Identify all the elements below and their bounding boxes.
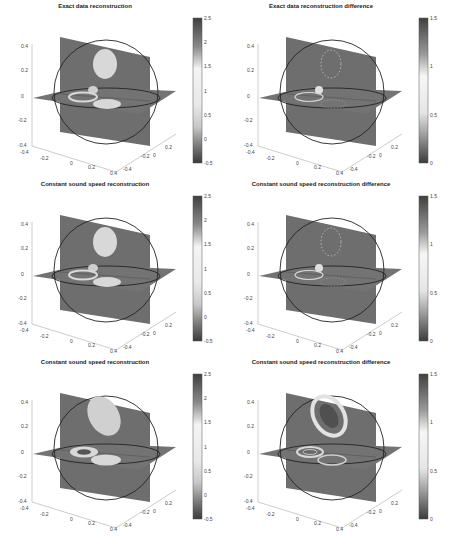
x-tick-label: 0.2: [88, 164, 95, 170]
x-tick-label: -0.2: [40, 333, 49, 339]
z-tick-label: -0.2: [244, 473, 253, 479]
x-tick-label: -0.4: [20, 149, 29, 155]
plot-title: Constant sound speed reconstruction: [0, 359, 190, 365]
plot-panel-1: Exact data reconstruction 0.40.20-0.2-0.…: [0, 0, 226, 178]
y-tick-label: -0.2: [141, 331, 150, 337]
colorbar-tick-label: 2: [204, 217, 207, 223]
z-tick-label: -0.4: [18, 320, 27, 326]
colorbar-tick-label: 0: [204, 136, 207, 142]
z-tick-label: 0: [247, 271, 250, 277]
x-tick-label: 0.2: [314, 164, 321, 170]
z-tick-label: 0: [247, 449, 250, 455]
z-tick-label: 0: [247, 93, 250, 99]
x-tick-label: 0.2: [314, 342, 321, 348]
x-tick-label: -0.2: [266, 333, 275, 339]
x-tick-label: -0.4: [246, 327, 255, 333]
colorbar-tick-label: 0: [430, 338, 433, 344]
y-tick-label: -0.2: [367, 331, 376, 337]
colorbar: [419, 196, 428, 341]
colorbar-tick-label: 0: [430, 516, 433, 522]
plot-title: Constant sound speed reconstruction diff…: [226, 359, 416, 365]
y-tick-label: 0.2: [391, 500, 398, 506]
z-tick-label: -0.4: [18, 498, 27, 504]
x-tick-label: 0.2: [314, 520, 321, 526]
z-tick-label: -0.4: [244, 498, 253, 504]
colorbar-tick-label: 0: [204, 314, 207, 320]
z-tick-label: -0.4: [18, 142, 27, 148]
x-tick-label: -0.2: [266, 511, 275, 517]
colorbar-tick-label: 1: [430, 419, 433, 425]
y-tick-label: 0: [379, 152, 382, 158]
colorbar-tick-label: 1: [430, 241, 433, 247]
colorbar-tick-label: 0: [430, 160, 433, 166]
y-tick-label: -0.2: [367, 509, 376, 515]
x-tick-label: 0.4: [336, 170, 343, 176]
slice-plot: [226, 178, 452, 356]
colorbar-tick-label: 0.5: [430, 112, 437, 118]
y-tick-label: -0.4: [349, 522, 358, 528]
colorbar-tick-label: 0.5: [430, 290, 437, 296]
x-tick-label: 0: [296, 516, 299, 522]
z-tick-label: 0.2: [21, 245, 28, 251]
z-tick-label: 0.4: [247, 399, 254, 405]
x-tick-label: 0: [296, 160, 299, 166]
colorbar-tick-label: -0.5: [204, 160, 213, 166]
colorbar-tick-label: 2: [204, 395, 207, 401]
z-tick-label: 0.2: [247, 67, 254, 73]
plot-panel-2: Exact data reconstruction difference 0.4…: [226, 0, 452, 178]
y-tick-label: -0.4: [123, 166, 132, 172]
y-tick-label: 0.2: [165, 500, 172, 506]
z-tick-label: 0.4: [21, 221, 28, 227]
z-tick-label: 0.4: [247, 221, 254, 227]
x-tick-label: -0.4: [20, 505, 29, 511]
plot-panel-5: Constant sound speed reconstruction 0.40…: [0, 356, 226, 534]
x-tick-label: 0.4: [110, 348, 117, 354]
plot-panel-4: Constant sound speed reconstruction diff…: [226, 178, 452, 356]
y-tick-label: -0.2: [141, 153, 150, 159]
y-tick-label: 0: [379, 508, 382, 514]
slice-plot: [0, 178, 226, 356]
slice-plot: [226, 0, 452, 178]
x-tick-label: -0.4: [20, 327, 29, 333]
colorbar-tick-label: 2.5: [204, 371, 211, 377]
x-tick-label: 0: [70, 160, 73, 166]
y-tick-label: 0.2: [391, 322, 398, 328]
y-tick-label: 0: [153, 508, 156, 514]
x-tick-label: 0: [296, 338, 299, 344]
z-tick-label: -0.2: [18, 473, 27, 479]
colorbar-tick-label: 0.5: [430, 468, 437, 474]
colorbar-tick-label: 1.5: [430, 15, 437, 21]
x-tick-label: 0.2: [88, 342, 95, 348]
slice-plot: [0, 0, 226, 178]
y-tick-label: -0.4: [349, 344, 358, 350]
colorbar-tick-label: -0.5: [204, 338, 213, 344]
z-tick-label: 0.2: [247, 245, 254, 251]
y-tick-label: 0: [153, 330, 156, 336]
y-tick-label: -0.2: [141, 509, 150, 515]
y-tick-label: -0.4: [123, 344, 132, 350]
colorbar-tick-label: 2: [204, 39, 207, 45]
y-tick-label: -0.4: [349, 166, 358, 172]
y-tick-label: -0.4: [123, 522, 132, 528]
colorbar-tick-label: 0: [204, 492, 207, 498]
colorbar-tick-label: 1.5: [430, 371, 437, 377]
colorbar-tick-label: 1.5: [204, 63, 211, 69]
colorbar-tick-label: 1: [204, 266, 207, 272]
colorbar: [419, 18, 428, 163]
x-tick-label: 0.4: [110, 526, 117, 532]
y-tick-label: 0.2: [391, 144, 398, 150]
y-tick-label: 0: [153, 152, 156, 158]
colorbar-tick-label: -0.5: [204, 516, 213, 522]
colorbar-tick-label: 1: [430, 63, 433, 69]
z-tick-label: 0.2: [21, 423, 28, 429]
z-tick-label: -0.4: [244, 142, 253, 148]
plot-title: Exact data reconstruction difference: [226, 3, 416, 9]
plot-title: Exact data reconstruction: [0, 3, 190, 9]
colorbar-tick-label: 0.5: [204, 468, 211, 474]
x-tick-label: 0: [70, 338, 73, 344]
colorbar-tick-label: 0.5: [204, 290, 211, 296]
x-tick-label: 0.2: [88, 520, 95, 526]
plot-panel-3: Constant sound speed reconstruction 0.40…: [0, 178, 226, 356]
x-tick-label: 0: [70, 516, 73, 522]
y-tick-label: 0: [379, 330, 382, 336]
